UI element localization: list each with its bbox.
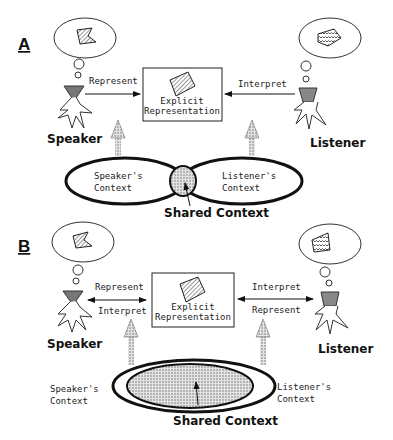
speaker-context-label-2: Context	[94, 183, 132, 193]
listener-thought-bubble-icon	[299, 224, 361, 286]
speaker-context-label-1: Speaker's	[94, 171, 143, 181]
box-line2: Representation	[144, 106, 220, 116]
box-line2: Representation	[155, 312, 231, 322]
speaker-thought-bubble-icon	[52, 222, 114, 284]
speaker-thought-bubble-icon	[54, 18, 116, 78]
box-line1: Explicit	[171, 302, 214, 312]
speaker-label: Speaker	[47, 132, 102, 146]
represent-label: Represent	[95, 282, 144, 292]
speaker-figure-icon	[58, 86, 92, 128]
represent-label: Represent	[89, 76, 138, 86]
listener-thought-bubble-icon	[299, 18, 361, 82]
speaker-context-arrow-icon	[124, 319, 138, 365]
listener-context-label-1: Listener's	[277, 382, 331, 392]
speaker-context-ellipse	[127, 364, 253, 408]
listener-context-label-1: Listener's	[222, 171, 276, 181]
interpret-label: Interpret	[98, 306, 147, 316]
interpret-label: Interpret	[238, 79, 287, 89]
listener-label: Listener	[310, 136, 365, 150]
explicit-representation-box: Explicit Representation	[143, 68, 222, 121]
listener-context-label-2: Context	[277, 394, 315, 404]
speaker-context-arrow-icon	[111, 120, 125, 156]
communication-diagram: A Speaker Represent Explicit Representat…	[0, 0, 393, 440]
interpret-label-right: Interpret	[252, 282, 301, 292]
shared-context-region	[170, 166, 196, 196]
listener-context-arrow-icon	[256, 319, 270, 365]
listener-figure-icon	[294, 88, 326, 129]
panel-a: A Speaker Represent Explicit Representat…	[18, 18, 365, 220]
speaker-context-ellipse	[66, 158, 184, 204]
listener-label: Listener	[318, 342, 373, 356]
panel-a-label: A	[18, 35, 30, 54]
listener-figure-icon	[315, 292, 348, 334]
box-line1: Explicit	[160, 96, 203, 106]
speaker-context-label-2: Context	[50, 396, 88, 406]
listener-context-label-2: Context	[222, 183, 260, 193]
explicit-representation-box: Explicit Representation	[152, 273, 234, 327]
speaker-context-label-1: Speaker's	[50, 384, 99, 394]
speaker-label: Speaker	[47, 337, 102, 351]
speaker-figure-icon	[58, 291, 92, 332]
shared-context-label: Shared Context	[164, 206, 269, 220]
represent-label-right: Represent	[252, 305, 301, 315]
listener-context-ellipse	[182, 158, 302, 204]
panel-b: B Speaker Represent Interpret Explicit R…	[18, 222, 373, 428]
panel-b-label: B	[18, 237, 30, 256]
shared-context-label: Shared Context	[173, 414, 278, 428]
listener-context-arrow-icon	[245, 120, 259, 156]
